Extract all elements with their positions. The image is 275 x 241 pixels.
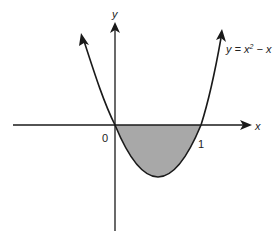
x-axis-label: x [254, 120, 261, 132]
y-axis-label: y [111, 8, 119, 20]
curve-equation-label: y = x2 − x [225, 43, 272, 55]
parabola-plot: y x 0 1 y = x2 − x [0, 0, 275, 241]
curve-left-arrow-icon [79, 33, 89, 46]
origin-label: 0 [102, 132, 108, 144]
x-one-label: 1 [198, 138, 204, 150]
